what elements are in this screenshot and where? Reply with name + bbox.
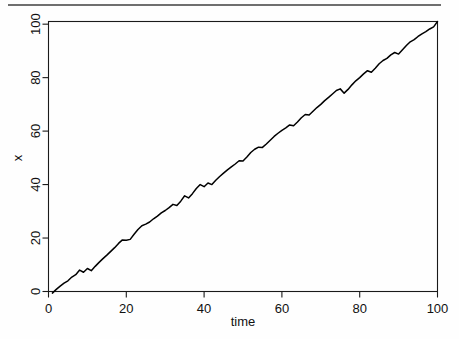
x-axis-title: time <box>231 314 256 329</box>
x-tick-label-80: 80 <box>352 301 366 316</box>
x-axis-ticks <box>49 292 438 298</box>
y-axis-tick-labels: 020406080100 <box>28 13 43 295</box>
y-tick-label-60: 60 <box>28 124 43 138</box>
y-tick-label-0: 0 <box>28 288 43 295</box>
y-axis-ticks <box>43 24 49 291</box>
x-tick-label-0: 0 <box>45 301 52 316</box>
series-line-x <box>52 22 437 294</box>
plot-canvas: 020406080100 020406080100 x time <box>0 10 459 339</box>
time-series-chart: 020406080100 020406080100 x time <box>0 10 459 339</box>
x-tick-label-40: 40 <box>197 301 211 316</box>
x-tick-label-20: 20 <box>119 301 133 316</box>
y-tick-label-20: 20 <box>28 231 43 245</box>
x-tick-label-100: 100 <box>427 301 449 316</box>
x-tick-label-60: 60 <box>275 301 289 316</box>
y-tick-label-80: 80 <box>28 70 43 84</box>
plot-panel-border <box>49 22 438 292</box>
y-tick-label-100: 100 <box>28 13 43 35</box>
y-axis-title: x <box>10 154 25 161</box>
figure-page: 020406080100 020406080100 x time <box>0 0 459 339</box>
top-horizontal-rule <box>8 4 441 6</box>
y-tick-label-40: 40 <box>28 177 43 191</box>
